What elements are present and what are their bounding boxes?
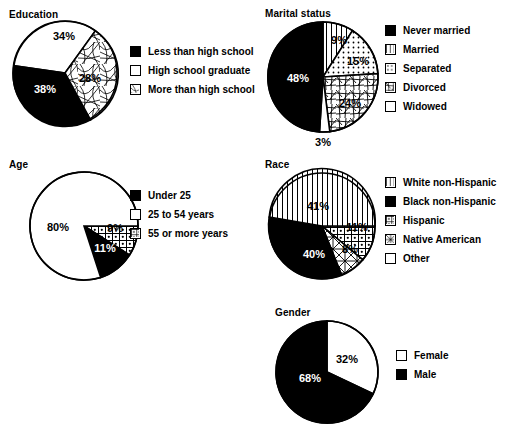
legend-swatch-white-icon [130, 65, 141, 76]
chart-title-education: Education [9, 9, 58, 20]
chart-panel-age: Age 80% 9% 11% Under 25 25 to 54 years [0, 148, 253, 296]
pie-label-black-non-hispanic: 40% [303, 248, 325, 260]
legend-age: Under 25 25 to 54 years 55 or more years [130, 189, 228, 239]
legend-swatch-vertical-lines-icon [385, 177, 396, 188]
legend-race: White non-Hispanic Black non-Hispanic Hi… [385, 176, 496, 264]
legend-swatch-grid-dots-icon [385, 215, 396, 226]
legend-item-55-or-more-years[interactable]: 55 or more years [130, 227, 228, 239]
legend-swatch-vertical-lines-icon [385, 44, 396, 55]
legend-item-male[interactable]: Male [396, 368, 448, 380]
pie-label-widowed: 3% [315, 136, 331, 148]
legend-item-other[interactable]: Other [385, 252, 496, 264]
pie-label-high-school-graduate: 34% [53, 30, 75, 42]
legend-label-widowed: Widowed [403, 101, 447, 112]
pie-label-married: 9% [331, 34, 347, 46]
legend-marital-status: Never married Married Separated Divorced… [385, 24, 470, 112]
legend-swatch-grid-dots-icon [130, 228, 141, 239]
legend-label-under-25: Under 25 [148, 190, 191, 201]
legend-swatch-crosshatch-icon [385, 82, 396, 93]
legend-item-female[interactable]: Female [396, 349, 448, 361]
legend-label-black-non-hispanic: Black non-Hispanic [403, 196, 496, 207]
legend-swatch-white-icon [385, 101, 396, 112]
legend-swatch-white-icon [130, 209, 141, 220]
legend-label-55-or-more-years: 55 or more years [148, 228, 228, 239]
pie-label-male: 68% [299, 372, 321, 384]
legend-swatch-solid-black-icon [385, 196, 396, 207]
legend-item-black-non-hispanic[interactable]: Black non-Hispanic [385, 195, 496, 207]
legend-education: Less than high school High school gradua… [130, 45, 255, 95]
pie-label-hispanic: 11% [346, 221, 368, 233]
legend-item-married[interactable]: Married [385, 43, 470, 55]
legend-label-more-than-high-school: More than high school [148, 84, 255, 95]
pie-label-divorced: 24% [339, 97, 361, 109]
pie-label-under-25: 11% [94, 242, 116, 254]
legend-item-25-to-54-years[interactable]: 25 to 54 years [130, 208, 228, 220]
legend-swatch-white-icon [396, 350, 407, 361]
legend-label-25-to-54-years: 25 to 54 years [148, 209, 214, 220]
legend-item-more-than-high-school[interactable]: More than high school [130, 83, 255, 95]
legend-gender: Female Male [396, 349, 448, 380]
chart-panel-gender: Gender 32% 68% Female Male [253, 296, 506, 428]
legend-label-male: Male [414, 369, 436, 380]
pie-label-less-than-high-school: 38% [34, 83, 56, 95]
pie-label-white-non-hispanic: 41% [307, 200, 329, 212]
chart-panel-education: Education 34% 28% 38% Less than high sch… [0, 0, 253, 148]
legend-swatch-triangle-hatch-icon [385, 234, 396, 245]
legend-item-under-25[interactable]: Under 25 [130, 189, 228, 201]
chart-title-marital-status: Marital status [265, 8, 331, 19]
legend-label-separated: Separated [403, 63, 451, 74]
legend-swatch-solid-black-icon [396, 369, 407, 380]
chart-title-gender: Gender [275, 307, 311, 318]
pie-label-female: 32% [336, 353, 358, 365]
chart-panel-marital-status: Marital status 9% 15% 24% 3% 48% Never m… [253, 0, 506, 148]
legend-label-divorced: Divorced [403, 82, 446, 93]
pie-chart-age: 80% 9% 11% [28, 170, 140, 282]
pie-slice-white-non-hispanic [269, 168, 375, 226]
legend-label-female: Female [414, 350, 448, 361]
legend-swatch-white-icon [385, 253, 396, 264]
legend-item-less-than-high-school[interactable]: Less than high school [130, 45, 255, 57]
pie-chart-marital-status: 9% 15% 24% 3% 48% [266, 20, 380, 134]
legend-swatch-solid-black-icon [130, 190, 141, 201]
legend-item-hispanic[interactable]: Hispanic [385, 214, 496, 226]
legend-item-separated[interactable]: Separated [385, 62, 470, 74]
pie-chart-gender: 32% 68% [275, 320, 379, 424]
legend-item-never-married[interactable]: Never married [385, 24, 470, 36]
legend-item-high-school-graduate[interactable]: High school graduate [130, 64, 255, 76]
pie-label-more-than-high-school: 28% [79, 72, 101, 84]
legend-label-married: Married [403, 44, 439, 55]
legend-item-native-american[interactable]: Native American [385, 233, 496, 245]
chart-title-race: Race [265, 159, 289, 170]
legend-item-divorced[interactable]: Divorced [385, 81, 470, 93]
pie-label-native-american: 8% [342, 243, 358, 255]
legend-label-high-school-graduate: High school graduate [148, 65, 250, 76]
legend-item-white-non-hispanic[interactable]: White non-Hispanic [385, 176, 496, 188]
legend-label-native-american: Native American [403, 234, 481, 245]
pie-label-55-or-more-years: 9% [107, 222, 123, 234]
legend-swatch-solid-black-icon [130, 46, 141, 57]
pie-label-separated: 15% [347, 55, 369, 67]
pie-label-25-to-54-years: 80% [47, 221, 69, 233]
chart-panel-race: Race 41% 11% 8% 40% White non-Hispanic [253, 148, 506, 296]
legend-swatch-scribble-hatch-icon [130, 84, 141, 95]
legend-item-widowed[interactable]: Widowed [385, 100, 470, 112]
legend-label-hispanic: Hispanic [403, 215, 445, 226]
legend-label-never-married: Never married [403, 25, 470, 36]
pie-chart-education: 34% 28% 38% [12, 20, 118, 126]
legend-label-other: Other [403, 253, 430, 264]
legend-swatch-dots-icon [385, 63, 396, 74]
pie-label-never-married: 48% [287, 72, 309, 84]
chart-title-age: Age [9, 159, 28, 170]
legend-swatch-solid-black-icon [385, 25, 396, 36]
legend-label-white-non-hispanic: White non-Hispanic [403, 177, 496, 188]
legend-label-less-than-high-school: Less than high school [148, 46, 254, 57]
pie-chart-race: 41% 11% 8% 40% [267, 171, 377, 281]
